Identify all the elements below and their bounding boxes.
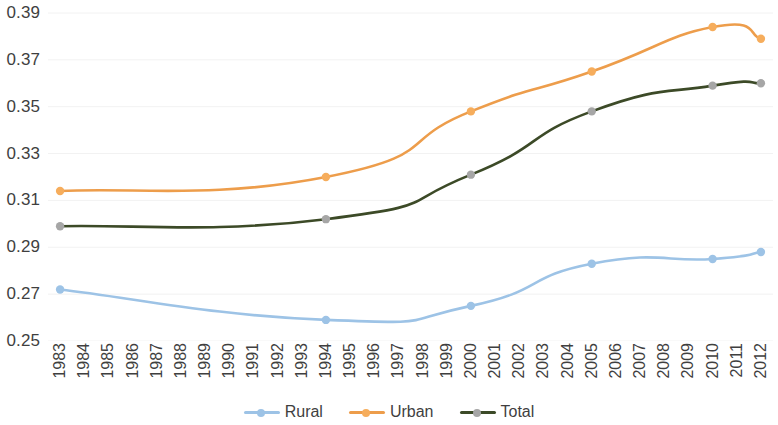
data-point-marker — [757, 79, 765, 87]
x-axis-tick-label: 1984 — [76, 341, 92, 395]
x-axis-tick-label: 2003 — [535, 341, 551, 395]
x-axis: 1983198419851986198719881989199019911992… — [48, 341, 773, 397]
x-axis-tick-label: 2007 — [632, 341, 648, 395]
legend-swatch-icon — [244, 406, 280, 418]
legend-label: Urban — [390, 403, 434, 421]
x-axis-tick-label: 1995 — [342, 341, 358, 395]
y-axis-tick-label: 0.35 — [7, 97, 41, 117]
data-point-marker — [757, 248, 765, 256]
data-point-marker — [467, 170, 475, 178]
x-axis-tick-label: 1998 — [415, 341, 431, 395]
x-axis-tick-label: 2008 — [656, 341, 672, 395]
x-axis-tick-label: 2000 — [463, 341, 479, 395]
series-line — [60, 82, 761, 228]
data-point-marker — [56, 187, 64, 195]
plot-area — [48, 0, 773, 341]
y-axis-tick-label: 0.25 — [7, 331, 41, 351]
legend-swatch-icon — [349, 406, 385, 418]
x-axis-tick-label: 2005 — [584, 341, 600, 395]
x-axis-tick-label: 1992 — [270, 341, 286, 395]
line-chart: 0.390.370.350.330.310.290.270.25 1983198… — [0, 0, 778, 425]
y-axis-tick-label: 0.33 — [7, 144, 41, 164]
data-point-marker — [322, 316, 330, 324]
series-line — [60, 24, 761, 191]
x-axis-tick-label: 2001 — [487, 341, 503, 395]
chart-legend: RuralUrbanTotal — [0, 399, 778, 425]
x-axis-tick-label: 1990 — [221, 341, 237, 395]
plot-svg — [48, 0, 773, 341]
legend-label: Rural — [285, 403, 323, 421]
series-line — [60, 252, 761, 322]
x-axis-tick-label: 2011 — [729, 341, 745, 395]
data-point-marker — [708, 81, 716, 89]
y-axis-tick-label: 0.31 — [7, 190, 41, 210]
x-axis-tick-label: 1987 — [149, 341, 165, 395]
legend-swatch-icon — [460, 406, 496, 418]
data-point-marker — [467, 107, 475, 115]
x-axis-tick-label: 1989 — [197, 341, 213, 395]
x-axis-tick-label: 2009 — [680, 341, 696, 395]
data-point-marker — [708, 255, 716, 263]
x-axis-tick-label: 2004 — [560, 341, 576, 395]
x-axis-tick-label: 1997 — [390, 341, 406, 395]
legend-item-total[interactable]: Total — [460, 403, 535, 421]
y-axis: 0.390.370.350.330.310.290.270.25 — [0, 0, 46, 345]
x-axis-tick-label: 2006 — [608, 341, 624, 395]
x-axis-tick-label: 1994 — [318, 341, 334, 395]
x-axis-tick-label: 2010 — [705, 341, 721, 395]
data-point-marker — [708, 23, 716, 31]
data-point-marker — [322, 215, 330, 223]
data-point-marker — [322, 173, 330, 181]
data-point-marker — [56, 222, 64, 230]
data-point-marker — [588, 67, 596, 75]
legend-item-rural[interactable]: Rural — [244, 403, 323, 421]
legend-item-urban[interactable]: Urban — [349, 403, 434, 421]
legend-label: Total — [501, 403, 535, 421]
y-axis-tick-label: 0.29 — [7, 237, 41, 257]
data-point-marker — [757, 35, 765, 43]
data-point-marker — [467, 302, 475, 310]
data-point-marker — [588, 107, 596, 115]
y-axis-tick-label: 0.39 — [7, 3, 41, 23]
x-axis-tick-label: 1999 — [439, 341, 455, 395]
x-axis-tick-label: 1986 — [125, 341, 141, 395]
y-axis-tick-label: 0.27 — [7, 284, 41, 304]
data-point-marker — [588, 259, 596, 267]
series-rural — [56, 248, 765, 324]
series-total — [56, 79, 765, 230]
x-axis-tick-label: 2002 — [511, 341, 527, 395]
x-axis-tick-label: 1991 — [245, 341, 261, 395]
x-axis-tick-label: 2012 — [753, 341, 769, 395]
series-urban — [56, 23, 765, 195]
x-axis-tick-label: 1988 — [173, 341, 189, 395]
x-axis-tick-label: 1993 — [294, 341, 310, 395]
y-axis-tick-label: 0.37 — [7, 50, 41, 70]
x-axis-tick-label: 1985 — [100, 341, 116, 395]
x-axis-tick-label: 1983 — [52, 341, 68, 395]
data-point-marker — [56, 285, 64, 293]
x-axis-tick-label: 1996 — [366, 341, 382, 395]
